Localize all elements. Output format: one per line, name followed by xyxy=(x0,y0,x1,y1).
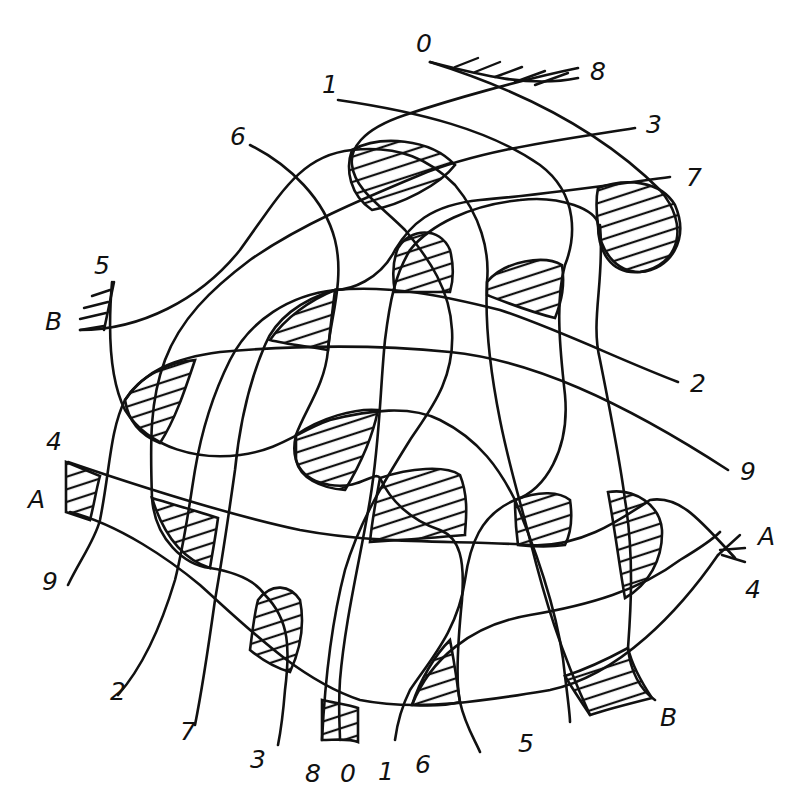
label-top-3: 3 xyxy=(646,110,662,139)
label-bottom-2: 2 xyxy=(110,677,126,706)
label-bottom-7: 7 xyxy=(180,717,196,746)
label-right-9: 9 xyxy=(740,457,756,486)
hatched-region-bottom-left xyxy=(250,588,302,672)
thread-5 xyxy=(110,282,570,722)
label-top-1: 1 xyxy=(322,70,338,99)
hatched-region-right xyxy=(608,491,662,598)
label-left-9: 9 xyxy=(42,567,58,596)
label-left-5: 5 xyxy=(94,251,110,280)
label-top-6: 6 xyxy=(230,122,246,151)
label-bottom-6: 6 xyxy=(415,750,431,779)
label-left-4: 4 xyxy=(46,427,62,456)
label-right-2: 2 xyxy=(690,369,706,398)
label-right-A: A xyxy=(756,522,775,551)
label-top-7: 7 xyxy=(686,163,702,192)
label-right-4: 4 xyxy=(745,575,761,604)
anchor-A-4-right xyxy=(718,535,745,562)
label-left-B: B xyxy=(45,307,62,336)
thread-interlacing-diagram: 0 8 1 3 6 7 5 B 4 A 9 2 9 A 4 2 B 7 5 3 … xyxy=(0,0,804,808)
label-left-A: A xyxy=(26,485,45,514)
anchor-B-5 xyxy=(80,282,114,330)
label-bottom-B: B xyxy=(660,703,677,732)
label-bottom-5: 5 xyxy=(518,729,534,758)
label-bottom-1: 1 xyxy=(378,757,394,786)
label-bottom-0: 0 xyxy=(340,759,356,788)
thread-5-right-branch xyxy=(596,225,655,700)
label-top-0: 0 xyxy=(416,29,432,58)
label-top-8: 8 xyxy=(590,57,606,86)
label-bottom-8: 8 xyxy=(305,759,321,788)
label-bottom-3: 3 xyxy=(250,745,266,774)
